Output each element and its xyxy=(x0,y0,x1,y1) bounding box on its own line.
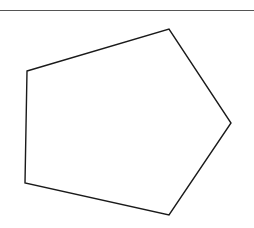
pentagon-shape xyxy=(25,29,231,215)
diagram-canvas xyxy=(0,0,254,228)
